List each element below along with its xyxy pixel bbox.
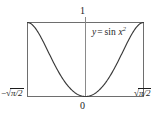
origin-label: 0 [80, 101, 85, 111]
equation-equals: = [96, 27, 103, 37]
x-axis-right-endpoint-label: √π/2 [134, 88, 151, 98]
x-axis-left-endpoint-label: −√π/2 [1, 88, 24, 98]
equation-annotation: y=sin x2 [92, 28, 126, 38]
figure-sin-x-squared: 1 0 −√π/2 √π/2 y=sin x2 [0, 0, 163, 118]
equation-function-name: sin [104, 27, 117, 37]
equation-exponent: 2 [123, 25, 126, 32]
y-axis-max-label: 1 [80, 6, 85, 16]
x-left-radicand: π/2 [10, 88, 24, 98]
x-right-radicand: π/2 [138, 88, 152, 98]
x-right-radical: √π/2 [134, 88, 151, 98]
x-left-radical: √π/2 [6, 88, 23, 98]
